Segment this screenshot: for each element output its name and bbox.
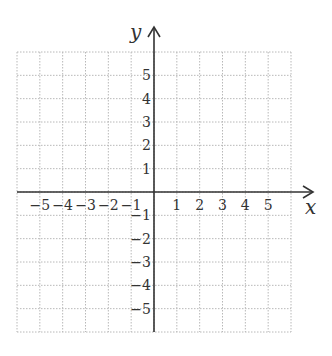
x-tick-label: −3 bbox=[75, 197, 96, 213]
y-tick-label: 5 bbox=[142, 67, 151, 83]
x-tick-label: −5 bbox=[30, 197, 51, 213]
x-tick-label: 2 bbox=[195, 197, 204, 213]
x-tick-label: 3 bbox=[218, 197, 227, 213]
y-axis-label: y bbox=[129, 20, 142, 44]
y-tick-label: 1 bbox=[142, 161, 151, 177]
y-tick-label: −2 bbox=[130, 231, 151, 247]
x-tick-label: −2 bbox=[98, 197, 119, 213]
x-tick-label: 4 bbox=[241, 197, 250, 213]
x-tick-label: 5 bbox=[264, 197, 273, 213]
x-tick-label: −4 bbox=[52, 197, 73, 213]
y-tick-label: −4 bbox=[130, 277, 151, 293]
y-tick-label: −5 bbox=[130, 301, 151, 317]
y-tick-label: 2 bbox=[142, 137, 151, 153]
x-tick-label: 1 bbox=[172, 197, 181, 213]
y-tick-label: −1 bbox=[130, 207, 151, 223]
x-tick-labels: −5−4−3−2−112345 bbox=[30, 197, 273, 213]
y-tick-label: 3 bbox=[142, 114, 151, 130]
y-tick-label: −3 bbox=[130, 254, 151, 270]
x-axis-label: x bbox=[305, 195, 316, 219]
coordinate-plane: −5−4−3−2−112345 54321−1−2−3−4−5 x y bbox=[0, 0, 332, 356]
y-tick-label: 4 bbox=[142, 91, 151, 107]
